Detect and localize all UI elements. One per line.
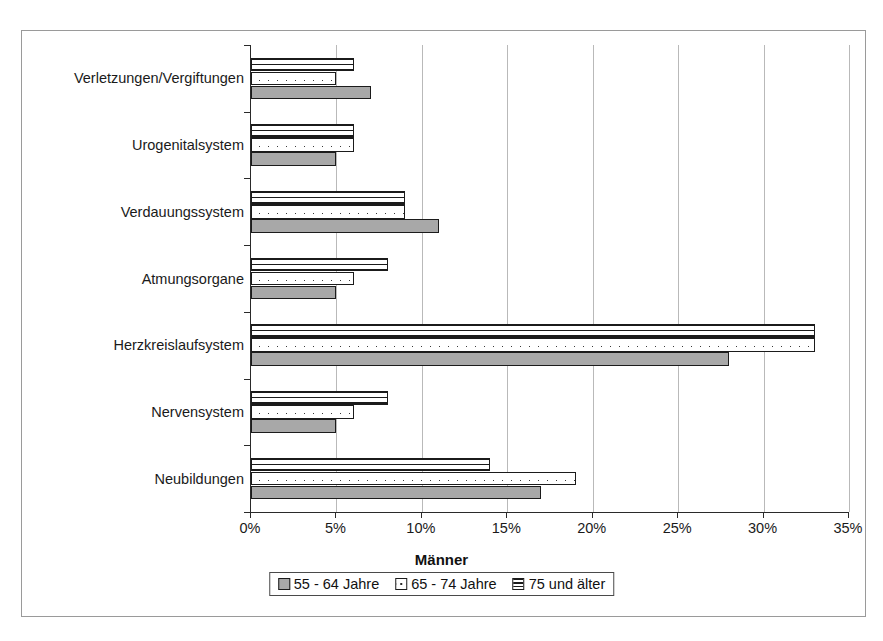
- bar: [251, 191, 405, 205]
- x-axis-label: 25%: [663, 520, 692, 536]
- x-axis-tick: [677, 512, 678, 518]
- bar: [251, 152, 336, 166]
- x-axis-label: 35%: [833, 520, 862, 536]
- chart-title: Männer: [0, 551, 883, 568]
- category-label: Herzkreislaufsystem: [0, 337, 244, 353]
- legend-item-55-64: 55 - 64 Jahre: [278, 576, 379, 592]
- gridline: [507, 45, 508, 512]
- bar: [251, 352, 729, 366]
- plot-area: [250, 45, 848, 512]
- x-axis-label: 10%: [406, 520, 435, 536]
- x-axis-tick: [421, 512, 422, 518]
- legend-swatch-65-74-icon: [395, 578, 407, 590]
- chart-screenshot: NeubildungenNervensystemHerzkreislaufsys…: [0, 0, 883, 641]
- category-label: Verletzungen/Vergiftungen: [0, 70, 244, 86]
- bar: [251, 86, 371, 100]
- legend-swatch-55-64-icon: [278, 578, 290, 590]
- bar: [251, 286, 336, 300]
- legend-item-75-plus: 75 und älter: [513, 576, 606, 592]
- category-label: Neubildungen: [0, 471, 244, 487]
- x-axis-label: 15%: [492, 520, 521, 536]
- bar: [251, 472, 576, 486]
- bar: [251, 458, 490, 472]
- gridline: [678, 45, 679, 512]
- x-axis-tick: [763, 512, 764, 518]
- category-label: Atmungsorgane: [0, 271, 244, 287]
- x-axis-tick: [506, 512, 507, 518]
- bar: [251, 58, 354, 72]
- bar: [251, 219, 439, 233]
- bar: [251, 391, 388, 405]
- bar: [251, 486, 541, 500]
- bar: [251, 324, 815, 338]
- category-label: Nervensystem: [0, 404, 244, 420]
- legend-label-65-74: 65 - 74 Jahre: [411, 576, 496, 592]
- x-axis-tick: [250, 512, 251, 518]
- bar: [251, 405, 354, 419]
- gridline: [764, 45, 765, 512]
- category-label: Verdauungssystem: [0, 204, 244, 220]
- x-axis-tick: [848, 512, 849, 518]
- gridline: [422, 45, 423, 512]
- x-axis-label: 0%: [240, 520, 261, 536]
- legend-label-55-64: 55 - 64 Jahre: [294, 576, 379, 592]
- gridline: [593, 45, 594, 512]
- bar: [251, 419, 336, 433]
- legend-label-75-plus: 75 und älter: [529, 576, 606, 592]
- category-label: Urogenitalsystem: [0, 137, 244, 153]
- legend: 55 - 64 Jahre 65 - 74 Jahre 75 und älter: [269, 572, 615, 596]
- bar: [251, 258, 388, 272]
- bar: [251, 72, 336, 86]
- bar: [251, 138, 354, 152]
- bar: [251, 338, 815, 352]
- x-axis-label: 20%: [577, 520, 606, 536]
- x-axis-tick: [592, 512, 593, 518]
- x-axis-tick: [335, 512, 336, 518]
- gridline: [849, 45, 850, 512]
- bar: [251, 272, 354, 286]
- bar: [251, 124, 354, 138]
- x-axis-line: [250, 512, 849, 513]
- legend-item-65-74: 65 - 74 Jahre: [395, 576, 496, 592]
- x-axis-label: 5%: [325, 520, 346, 536]
- x-axis-label: 30%: [748, 520, 777, 536]
- legend-swatch-75-plus-icon: [513, 578, 525, 590]
- bar: [251, 205, 405, 219]
